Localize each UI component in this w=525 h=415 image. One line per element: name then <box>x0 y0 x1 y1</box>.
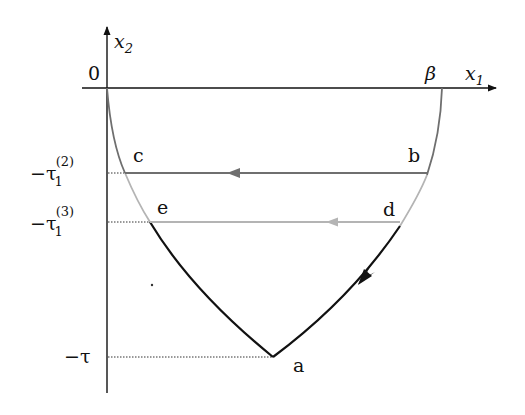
tau-label: −τ <box>64 345 90 367</box>
tau1-2-label: −τ1(2) <box>30 154 74 189</box>
dotted-guides <box>108 173 272 357</box>
origin-label: 0 <box>88 62 100 84</box>
point-e-label: e <box>157 196 168 218</box>
x2-axis-label: x2 <box>114 30 133 56</box>
point-b-label: b <box>408 144 420 166</box>
curve-b-to-d <box>400 175 427 226</box>
beta-label: β <box>424 62 436 84</box>
curve-origin-to-c <box>107 88 125 173</box>
point-d-label: d <box>383 198 395 220</box>
curve-d-to-a <box>273 226 400 357</box>
curve-beta-to-b <box>427 88 442 175</box>
x1-axis-label: x1 <box>465 62 484 88</box>
tau1-3-label: −τ1(3) <box>30 204 74 239</box>
curve-c-to-e <box>125 173 150 222</box>
stray-dot <box>151 284 153 286</box>
point-a-label: a <box>293 354 304 376</box>
phase-plane-figure: x2 x1 0 β c b e d a −τ1(2 <box>0 0 525 415</box>
arrow-d-to-e-icon <box>326 218 338 227</box>
curve-e-to-a <box>150 222 273 357</box>
arrow-b-to-c-icon <box>227 168 240 178</box>
point-c-label: c <box>133 144 144 166</box>
